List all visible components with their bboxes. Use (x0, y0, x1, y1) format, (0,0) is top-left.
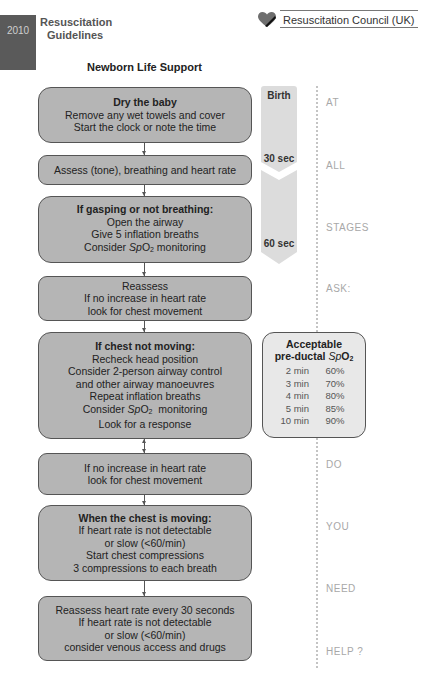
step-line: Start chest compressions (39, 549, 251, 562)
step-line: Reassess heart rate every 30 seconds (39, 604, 251, 617)
step-reassess: Reassess If no increase in heart rate lo… (38, 276, 252, 321)
timeline-birth: Birth (261, 90, 297, 101)
flow-arrow (144, 263, 145, 276)
step-line: Consider 2-person airway control (39, 365, 251, 378)
step-line: or slow (<60/min) (39, 629, 251, 642)
step-chest-not-moving: If chest not moving: Recheck head positi… (38, 332, 252, 439)
step-line: If no increase in heart rate (39, 292, 251, 305)
guidelines-line-2: Guidelines (40, 29, 112, 42)
step-heading: When the chest is moving: (39, 512, 251, 525)
step-line: Open the airway (39, 216, 251, 229)
step-line: 3 compressions to each breath (39, 562, 251, 575)
flow-arrow (144, 185, 145, 196)
spo2-title-line-2: pre-ductal SpO2 (263, 350, 365, 365)
step-line: Remove any wet towels and cover (39, 109, 251, 122)
year-badge: 2010 (0, 15, 36, 70)
step-line: look for chest movement (39, 474, 251, 487)
heart-logo-icon (258, 12, 276, 28)
timeline-bar: Birth 30 sec 60 sec (261, 86, 297, 264)
step-line: If heart rate is not detectable (39, 616, 251, 629)
side-word: NEED (326, 583, 356, 594)
step-reassess-30s: Reassess heart rate every 30 seconds If … (38, 596, 252, 661)
step-line: Look for a response (39, 418, 251, 431)
spo2-target-table: Acceptable pre-ductal SpO2 2 min60% 3 mi… (262, 332, 366, 438)
spo2-row: 5 min85% (263, 403, 365, 416)
step-line: or slow (<60/min) (39, 537, 251, 550)
step-line: Reassess (39, 280, 251, 293)
step-line: consider venous access and drugs (39, 641, 251, 654)
side-word: DO (326, 459, 342, 470)
step-gasping: If gasping or not breathing: Open the ai… (38, 196, 252, 263)
spo2-row: 4 min80% (263, 390, 365, 403)
step-line: Repeat inflation breaths (39, 390, 251, 403)
side-word: HELP ? (326, 646, 363, 657)
spo2-title-line-1: Acceptable (263, 338, 365, 350)
organization-logo: Resuscitation Council (UK) (258, 8, 418, 32)
step-line: If no increase in heart rate (39, 462, 251, 475)
step-no-increase: If no increase in heart rate look for ch… (38, 453, 252, 495)
side-word: STAGES (326, 222, 369, 233)
side-word: YOU (326, 521, 349, 532)
step-line: Recheck head position (39, 353, 251, 366)
step-assess: Assess (tone), breathing and heart rate (38, 155, 252, 185)
step-chest-moving: When the chest is moving: If heart rate … (38, 505, 252, 581)
flow-arrow-bidirectional (144, 439, 145, 453)
spo2-row: 3 min70% (263, 378, 365, 391)
step-heading: If chest not moving: (39, 340, 251, 353)
spo2-row: 10 min90% (263, 415, 365, 428)
step-line: Start the clock or note the time (39, 121, 251, 134)
step-heading: Dry the baby (39, 96, 251, 109)
timeline-60-sec: 60 sec (261, 238, 297, 249)
step-line: and other airway manoeuvres (39, 378, 251, 391)
step-line: If heart rate is not detectable (39, 524, 251, 537)
step-line: Give 5 inflation breaths (39, 228, 251, 241)
step-line: Assess (tone), breathing and heart rate (39, 164, 251, 177)
flow-arrow (144, 143, 145, 155)
step-line-spo2: Consider SpO2 monitoring (39, 241, 251, 257)
spo2-row: 2 min60% (263, 365, 365, 378)
side-word: AT (326, 97, 339, 108)
step-line: look for chest movement (39, 305, 251, 318)
step-heading: If gasping or not breathing: (39, 203, 251, 216)
guidelines-line-1: Resuscitation (40, 16, 112, 29)
flow-arrow (144, 581, 145, 596)
side-word: ASK: (326, 283, 351, 294)
organization-name: Resuscitation Council (UK) (280, 10, 418, 28)
flow-arrow (144, 495, 145, 505)
flow-arrow (144, 321, 145, 332)
step-line-spo2: Consider SpO2 monitoring (39, 403, 251, 419)
page-title: Newborn Life Support (87, 61, 202, 73)
step-dry-baby: Dry the baby Remove any wet towels and c… (38, 87, 252, 143)
timeline-30-sec: 30 sec (261, 153, 297, 164)
side-word: ALL (326, 160, 345, 171)
guidelines-title: Resuscitation Guidelines (40, 16, 112, 42)
